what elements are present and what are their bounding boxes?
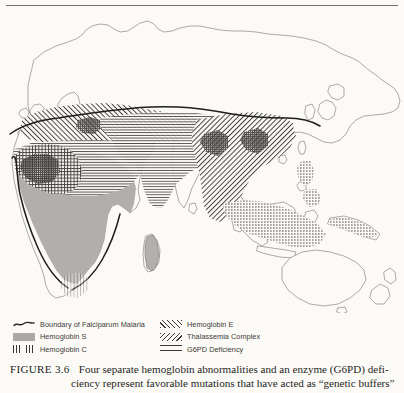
- vertical-hatch-icon: [13, 345, 35, 353]
- backward-diagonal-hatch-icon: [160, 333, 182, 341]
- figure-label: FIGURE 3.6: [10, 363, 70, 377]
- legend-column-right: Hemoglobin E Thalassemia Complex G6PD De…: [160, 318, 260, 356]
- figure-page: Boundary of Falciparum Malaria Hemoglobi…: [0, 0, 404, 393]
- legend-item-g6pd-deficiency: G6PD Deficiency: [160, 343, 260, 356]
- world-distribution-map: [0, 8, 404, 313]
- legend-item-thalassemia-complex: Thalassemia Complex: [160, 331, 260, 344]
- top-divider-rule: [6, 5, 398, 6]
- figure-caption-line-2: ciency represent favorable mutations tha…: [71, 377, 398, 391]
- legend-label-g6pd-deficiency: G6PD Deficiency: [187, 345, 243, 354]
- legend-item-hemoglobin-e: Hemoglobin E: [160, 318, 260, 331]
- wavy-line-icon: [13, 320, 35, 328]
- map-legend: Boundary of Falciparum Malaria Hemoglobi…: [13, 318, 343, 358]
- legend-label-thalassemia-complex: Thalassemia Complex: [187, 332, 260, 341]
- figure-caption: FIGURE 3.6 Four separate hemoglobin abno…: [10, 363, 398, 390]
- legend-column-left: Boundary of Falciparum Malaria Hemoglobi…: [13, 318, 145, 356]
- forward-diagonal-hatch-icon: [160, 320, 182, 328]
- tasmania-outline: [337, 307, 347, 313]
- legend-item-hemoglobin-c: Hemoglobin C: [13, 343, 145, 356]
- legend-label-falciparum-boundary: Boundary of Falciparum Malaria: [40, 320, 145, 329]
- solid-fill-icon: [13, 333, 35, 341]
- figure-caption-line-1: Four separate hemoglobin abnormalities a…: [79, 363, 398, 377]
- legend-label-hemoglobin-e: Hemoglobin E: [187, 320, 233, 329]
- horizontal-hatch-icon: [160, 345, 182, 353]
- legend-label-hemoglobin-s: Hemoglobin S: [40, 332, 86, 341]
- legend-item-falciparum-boundary: Boundary of Falciparum Malaria: [13, 318, 145, 331]
- legend-label-hemoglobin-c: Hemoglobin C: [40, 345, 87, 354]
- map-container: [0, 8, 404, 313]
- legend-item-hemoglobin-s: Hemoglobin S: [13, 331, 145, 344]
